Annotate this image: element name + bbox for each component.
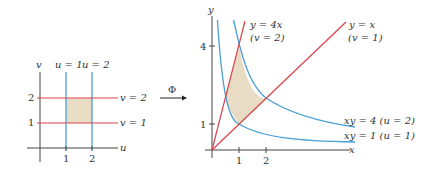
label-y-4x: y = 4x [249,19,283,30]
uv-shaded-region [66,98,92,123]
label-u-1: u = 1 [55,59,83,70]
label-y-x: y = x [348,19,375,30]
v-tick-label-1: 1 [28,117,34,128]
map-arrow: Φ [160,84,187,101]
v-tick-label-2: 2 [28,92,34,103]
y-tick-label-4: 4 [200,41,206,52]
xy-plane: y x 4 1 1 2 y = 4x (v = 2) y = x (v = 1)… [200,4,415,166]
label-u-2: u = 2 [82,59,110,70]
x-tick-label-1: 1 [236,155,242,166]
x-tick-label-2: 2 [263,155,269,166]
phi-label: Φ [168,84,176,95]
uv-plane: v u u = 1 u = 2 v = 2 v = 1 2 1 1 2 [27,59,147,164]
x-axis-label: x [349,144,355,155]
label-v-1-param: (v = 1) [348,32,383,43]
xy-shaded-region [226,46,267,124]
y-axis-label: y [207,4,214,15]
y-tick-label-1: 1 [200,119,206,130]
diagram-canvas: v u u = 1 u = 2 v = 2 v = 1 2 1 1 2 Φ [0,0,422,174]
u-tick-label-2: 2 [89,153,95,164]
label-v-2: v = 2 [120,92,147,103]
label-xy-4: xy = 4 (u = 2) [344,115,415,126]
label-xy-1: xy = 1 (u = 1) [344,130,415,141]
label-v-2-param: (v = 2) [250,32,285,43]
arrow-head-icon [182,96,187,101]
v-axis-label: v [36,59,42,70]
u-tick-label-1: 1 [63,153,69,164]
u-axis-label: u [120,142,126,153]
label-v-1: v = 1 [120,117,147,128]
